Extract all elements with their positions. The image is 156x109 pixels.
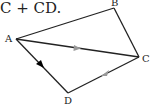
label-d: D (64, 95, 72, 106)
quadrilateral-diagram: A B C D (0, 0, 156, 109)
label-b: B (111, 0, 118, 8)
arrow-ac-icon (74, 45, 82, 51)
segment-bc (114, 8, 139, 57)
label-c: C (142, 53, 150, 64)
segment-ab (16, 8, 114, 39)
label-a: A (4, 33, 13, 44)
